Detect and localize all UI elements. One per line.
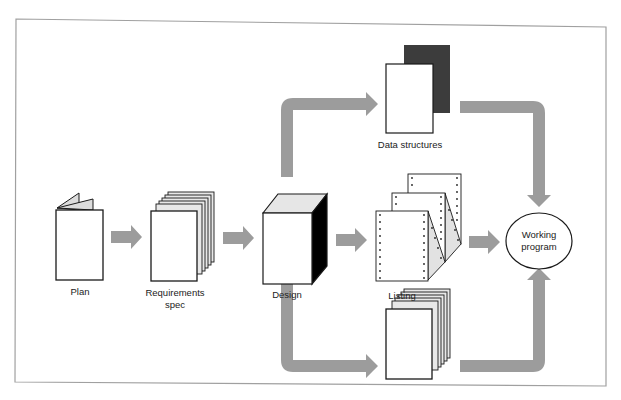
arrow-test-spec-to-working-program xyxy=(460,268,551,372)
label-working-program: Working program xyxy=(521,229,556,253)
label-requirements-line1: Requirements xyxy=(145,287,204,299)
overlapping-pages-icon xyxy=(386,45,450,133)
label-design: Design xyxy=(272,289,302,301)
fanfold-printout-icon xyxy=(376,174,461,281)
document-stack-icon xyxy=(386,289,450,379)
arrow-listing-to-working-program xyxy=(469,230,500,254)
label-requirements-line2: spec xyxy=(145,299,204,311)
label-plan: Plan xyxy=(70,286,89,298)
cube-icon xyxy=(263,194,327,284)
label-requirements-spec: Requirements spec xyxy=(145,287,204,311)
label-working-line1: Working xyxy=(521,229,556,241)
label-data-structures: Data structures xyxy=(378,139,442,151)
arrow-plan-to-requirements xyxy=(111,225,142,249)
label-listing: Listing xyxy=(388,290,415,302)
label-working-line2: program xyxy=(521,241,556,253)
diagram-canvas: Plan Requirements spec Design Data struc… xyxy=(0,0,621,400)
document-stack-icon xyxy=(151,192,214,281)
arrow-data-structures-to-working-program xyxy=(460,101,551,207)
booklet-icon xyxy=(56,193,103,280)
arrow-requirements-to-design xyxy=(223,226,254,250)
arrow-design-to-listing xyxy=(336,228,367,252)
arrow-design-to-data-structures xyxy=(281,92,378,177)
